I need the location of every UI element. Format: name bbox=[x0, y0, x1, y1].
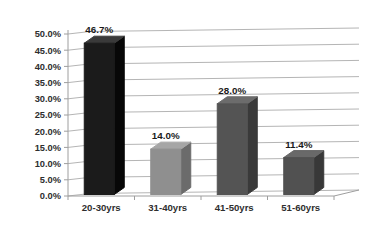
bar-front-face bbox=[284, 158, 314, 195]
y-axis-label: 40.0% bbox=[35, 62, 62, 72]
bar-front-face bbox=[151, 149, 181, 194]
y-axis-label: 50.0% bbox=[35, 29, 62, 39]
age-distribution-bar-chart: 0.0%5.0%10.0%15.0%20.0%25.0%30.0%35.0%40… bbox=[0, 0, 372, 230]
x-axis-category-label: 51-60yrs bbox=[281, 202, 320, 213]
x-axis-category-label: 31-40yrs bbox=[148, 202, 187, 213]
y-axis-label: 25.0% bbox=[35, 110, 62, 120]
bar-side-face bbox=[181, 142, 191, 194]
bar-data-label: 11.4% bbox=[285, 139, 313, 150]
y-axis-label: 15.0% bbox=[35, 143, 62, 153]
gridline bbox=[90, 77, 359, 81]
floor-right-edge bbox=[334, 190, 359, 196]
gridline bbox=[90, 44, 359, 48]
gridline bbox=[90, 60, 359, 64]
y-axis-label: 35.0% bbox=[35, 78, 62, 88]
bar-data-label: 14.0% bbox=[152, 130, 180, 141]
y-axis-label: 5.0% bbox=[40, 175, 62, 185]
bar-data-label: 28.0% bbox=[218, 85, 246, 96]
bar-side-face bbox=[114, 36, 124, 194]
x-axis-category-label: 41-50yrs bbox=[215, 202, 254, 213]
bar-chart-svg: 0.0%5.0%10.0%15.0%20.0%25.0%30.0%35.0%40… bbox=[0, 0, 372, 230]
x-axis-category-label: 20-30yrs bbox=[82, 202, 121, 213]
bar-front-face bbox=[84, 43, 114, 194]
bar-data-label: 46.7% bbox=[85, 24, 113, 35]
y-axis-label: 20.0% bbox=[35, 127, 62, 137]
y-axis-label: 0.0% bbox=[40, 191, 62, 201]
bar-front-face bbox=[217, 104, 247, 195]
gridline bbox=[90, 28, 359, 32]
y-axis-label: 30.0% bbox=[35, 94, 62, 104]
y-axis-label: 45.0% bbox=[35, 46, 62, 56]
bar-side-face bbox=[247, 97, 257, 195]
bar-side-face bbox=[314, 151, 324, 195]
y-axis-label: 10.0% bbox=[35, 159, 62, 169]
